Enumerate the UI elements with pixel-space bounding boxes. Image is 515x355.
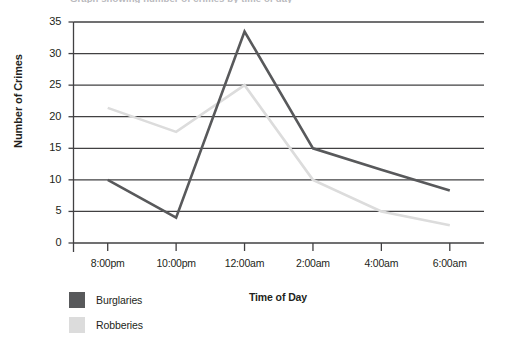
x-tick-label-1: 10:00pm	[140, 258, 212, 269]
x-axis-ticks	[108, 243, 450, 251]
y-tick-label-10: 10	[36, 174, 62, 185]
legend-label-robberies: Robberies	[96, 319, 143, 331]
x-tick-label-2: 12:00am	[209, 258, 281, 269]
legend-item-robberies[interactable]: Robberies	[69, 312, 279, 337]
series-line-robberies	[108, 85, 450, 225]
legend-label-burglaries: Burglaries	[96, 294, 142, 306]
y-tick-label-15: 15	[36, 142, 62, 153]
x-tick-label-4: 4:00am	[345, 258, 417, 269]
chart-legend: BurglariesRobberies	[69, 287, 279, 337]
x-tick-label-3: 2:00am	[277, 258, 349, 269]
y-tick-label-20: 20	[36, 111, 62, 122]
legend-item-burglaries[interactable]: Burglaries	[69, 287, 279, 312]
crime-line-chart: Graph showing number of crimes by time o…	[0, 0, 515, 355]
y-tick-label-25: 25	[36, 79, 62, 90]
y-tick-label-30: 30	[36, 48, 62, 59]
legend-swatch-icon-robberies	[69, 317, 85, 333]
y-tick-label-35: 35	[36, 16, 62, 27]
x-tick-label-5: 6:00am	[414, 258, 486, 269]
y-axis-ticks	[69, 22, 74, 243]
data-series	[108, 31, 450, 225]
y-axis-title: Number of Crimes	[12, 31, 24, 171]
y-tick-label-5: 5	[36, 205, 62, 216]
legend-swatch-icon-burglaries	[69, 292, 85, 308]
cropped-figure-title: Graph showing number of crimes by time o…	[70, 0, 490, 3]
x-tick-label-0: 8:00pm	[72, 258, 144, 269]
y-tick-label-0: 0	[36, 237, 62, 248]
